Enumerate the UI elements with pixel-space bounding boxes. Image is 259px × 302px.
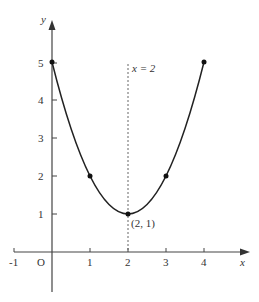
y-tick-label: 1 (38, 208, 44, 220)
y-tick-label: 5 (38, 57, 44, 69)
point-0-5 (50, 60, 55, 65)
y-tick-label: 4 (38, 94, 44, 106)
y-axis-arrow-icon (49, 20, 56, 30)
x-axis-label: x (239, 256, 245, 268)
x-tick-label: -1 (9, 256, 18, 268)
point-4-5 (202, 60, 207, 65)
y-tick-label: 3 (38, 132, 44, 144)
x-tick-label: 4 (201, 256, 207, 268)
parabola-chart: -1 O 1 2 3 4 x 1 2 3 4 5 y x = 2 (2, 1) (0, 0, 259, 302)
y-tick-label: 2 (38, 170, 44, 182)
vertex-point (126, 212, 131, 217)
y-axis-label: y (40, 13, 46, 25)
symmetry-label: x = 2 (131, 62, 156, 74)
origin-label: O (37, 256, 45, 268)
x-axis-arrow-icon (240, 249, 250, 256)
x-tick-label: 1 (87, 256, 93, 268)
x-tick-label: 2 (125, 256, 131, 268)
point-1-2 (88, 174, 93, 179)
vertex-label: (2, 1) (131, 217, 155, 230)
point-3-2 (164, 174, 169, 179)
y-ticks (52, 63, 57, 214)
x-tick-label: 3 (163, 256, 169, 268)
